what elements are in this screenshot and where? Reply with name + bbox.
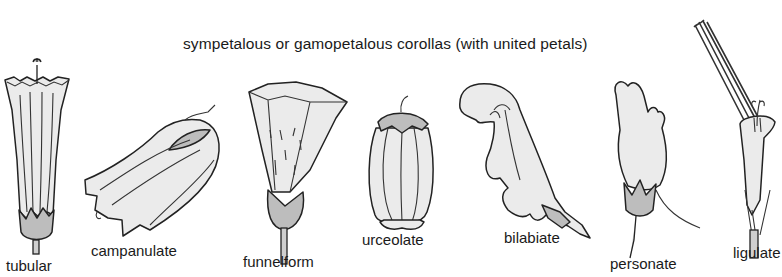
tubular-flower-illustration bbox=[5, 58, 69, 254]
funnelform-flower-illustration bbox=[249, 82, 347, 264]
ligulate-flower-illustration bbox=[694, 20, 775, 258]
bilabiate-flower-illustration bbox=[460, 84, 590, 238]
campanulate-flower-illustration bbox=[85, 105, 219, 236]
label-campanulate: campanulate bbox=[91, 242, 177, 259]
personate-flower-illustration bbox=[615, 82, 700, 258]
label-tubular: tubular bbox=[6, 257, 52, 274]
label-personate: personate bbox=[610, 255, 677, 272]
urceolate-flower-illustration bbox=[369, 96, 433, 229]
label-urceolate: urceolate bbox=[362, 231, 424, 248]
label-ligulate: ligulate bbox=[733, 244, 781, 261]
label-funnelform: funnelform bbox=[243, 253, 314, 270]
label-bilabiate: bilabiate bbox=[504, 229, 560, 246]
